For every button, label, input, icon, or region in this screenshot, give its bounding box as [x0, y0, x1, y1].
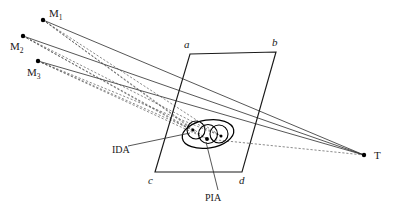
dashed-ray-m3-to-p2	[38, 61, 207, 139]
label-corner-b: b	[272, 36, 278, 48]
viewpoint-dot-m1	[41, 18, 45, 22]
label-corner-d: d	[239, 174, 245, 186]
dashed-ray-group	[23, 20, 364, 155]
viewpoint-dot-group	[21, 18, 366, 157]
ida-leader-line	[128, 133, 190, 146]
label-t: T	[374, 149, 381, 161]
dashed-ray-m2-to-p2	[23, 36, 207, 139]
dashed-ray-m1-to-p1	[43, 20, 193, 130]
label-pia: PIA	[205, 192, 222, 203]
pia-center-dot-left	[192, 129, 195, 132]
projection-geometry-figure: M1 M2 M3 a b c d T IDA PIA	[0, 0, 394, 213]
dashed-ray-m1-to-p3	[43, 20, 221, 136]
label-corner-c: c	[148, 174, 153, 186]
dashed-ray-m2-to-p3	[23, 36, 221, 136]
viewpoint-dot-m3	[36, 59, 40, 63]
pia-center-dot-right	[220, 135, 223, 138]
dashed-ray-m3-to-p1	[38, 61, 193, 130]
label-m2: M2	[10, 40, 24, 55]
diagram-canvas: M1 M2 M3 a b c d T IDA PIA	[0, 0, 394, 213]
viewpoint-dot-t	[362, 153, 366, 157]
label-m3: M3	[27, 66, 41, 81]
pia-center-dot-middle	[205, 137, 209, 141]
pia-leader-line	[206, 142, 218, 190]
dashed-ray-m3-to-p3	[38, 61, 221, 136]
label-ida: IDA	[112, 144, 131, 155]
viewpoint-dot-m2	[21, 34, 25, 38]
label-corner-a: a	[184, 38, 190, 50]
label-m1: M1	[49, 7, 63, 22]
